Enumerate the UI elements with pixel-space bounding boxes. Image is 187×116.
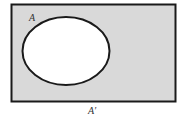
venn-diagram: A A′ bbox=[0, 0, 187, 116]
set-a-label: A bbox=[28, 12, 36, 23]
set-a-ellipse bbox=[23, 17, 110, 85]
complement-label: A′ bbox=[87, 105, 97, 116]
